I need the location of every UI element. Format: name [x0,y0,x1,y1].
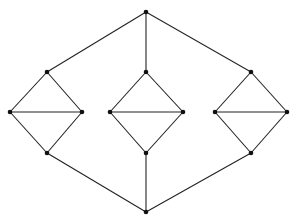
graph-node [144,210,149,215]
graph-node [108,110,113,115]
graph-edge [47,72,82,112]
graph-node [45,151,50,156]
graph-edge [10,112,47,153]
graph-node [249,151,254,156]
graph-edge [110,72,146,112]
graph-node [144,10,149,15]
graph-edge [251,112,287,153]
graph-node [285,110,290,115]
graph-node [80,110,85,115]
graph-node [8,110,13,115]
graph-edge [47,112,82,153]
graph-edge [47,12,146,72]
graph-diagram [0,0,293,217]
graph-node [45,70,50,75]
graph-edge [47,153,146,212]
graph-edge [146,153,251,212]
graph-edge [110,112,146,153]
graph-node [181,110,186,115]
graph-edge [215,72,251,112]
graph-node [213,110,218,115]
graph-edge [251,72,287,112]
graph-edge [10,72,47,112]
graph-edges [10,12,287,212]
graph-edge [215,112,251,153]
graph-edge [146,112,183,153]
graph-node [144,70,149,75]
graph-edge [146,12,251,72]
graph-node [249,70,254,75]
graph-node [144,151,149,156]
graph-edge [146,72,183,112]
